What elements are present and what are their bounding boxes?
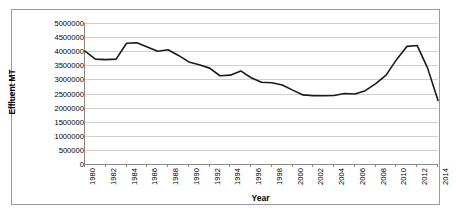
x-axis-tick-label: 2000 <box>296 168 305 185</box>
x-axis-tick-label: 2002 <box>316 168 325 185</box>
x-axis-tick-mark <box>333 164 334 167</box>
x-axis-tick-mark <box>375 164 376 167</box>
x-axis-tick-label: 1996 <box>254 168 263 185</box>
x-axis-title: Year <box>84 193 437 203</box>
x-axis-tick-mark <box>250 164 251 167</box>
x-axis-tick-mark <box>209 164 210 167</box>
effluent-line <box>85 43 438 101</box>
x-axis-tick-label: 1992 <box>213 168 222 185</box>
x-axis-tick-label: 1990 <box>192 168 201 185</box>
y-axis-tick-label: 1500000 <box>30 117 84 126</box>
y-axis-tick-label: 1000000 <box>30 131 84 140</box>
y-axis-tick-label: 2000000 <box>30 103 84 112</box>
x-axis-tick-label: 2012 <box>420 168 429 185</box>
plot-area <box>84 23 438 164</box>
x-axis-tick-label: 1988 <box>171 168 180 185</box>
x-axis-tick-label: 1982 <box>109 168 118 185</box>
chart-container: Effluent MT 5000000450000040000003500000… <box>11 9 440 205</box>
x-axis-tick-labels: 1980198219841986198819901992199419961998… <box>84 168 437 194</box>
x-axis-tick-mark <box>146 164 147 167</box>
x-axis-tick-label: 2008 <box>379 168 388 185</box>
y-axis-tick-label: 500000 <box>30 145 84 154</box>
x-axis-tick-mark <box>105 164 106 167</box>
y-axis-tick-label: 4000000 <box>30 47 84 56</box>
x-axis-tick-mark <box>126 164 127 167</box>
x-axis-tick-label: 1994 <box>233 168 242 185</box>
x-axis-tick-mark <box>416 164 417 167</box>
y-axis-tick-label: 3000000 <box>30 75 84 84</box>
x-axis-tick-mark <box>84 164 85 167</box>
x-axis-tick-label: 1986 <box>150 168 159 185</box>
line-series <box>85 23 438 164</box>
x-axis-tick-mark <box>437 164 438 167</box>
x-axis-tick-mark <box>395 164 396 167</box>
y-axis-tick-labels: 5000000450000040000003500000300000025000… <box>30 10 84 204</box>
x-axis-tick-label: 1980 <box>88 168 97 185</box>
y-axis-tick-label: 4500000 <box>30 33 84 42</box>
x-axis-tick-label: 2006 <box>358 168 367 185</box>
x-axis-tick-label: 2004 <box>337 168 346 185</box>
x-axis-tick-mark <box>229 164 230 167</box>
x-axis-tick-label: 1984 <box>130 168 139 185</box>
x-axis-tick-label: 1998 <box>275 168 284 185</box>
x-axis-tick-mark <box>188 164 189 167</box>
x-axis-tick-mark <box>167 164 168 167</box>
x-axis-tick-mark <box>312 164 313 167</box>
x-axis-tick-mark <box>292 164 293 167</box>
x-axis-tick-label: 2010 <box>399 168 408 185</box>
y-axis-title: Effluent MT <box>7 44 21 140</box>
x-axis-tick-mark <box>271 164 272 167</box>
y-axis-tick-label: 3500000 <box>30 61 84 70</box>
y-axis-tick-label: 0 <box>30 160 84 169</box>
x-axis-tick-mark <box>354 164 355 167</box>
y-axis-tick-label: 5000000 <box>30 19 84 28</box>
y-axis-tick-label: 2500000 <box>30 89 84 98</box>
x-axis-tick-label: 2014 <box>441 168 450 185</box>
